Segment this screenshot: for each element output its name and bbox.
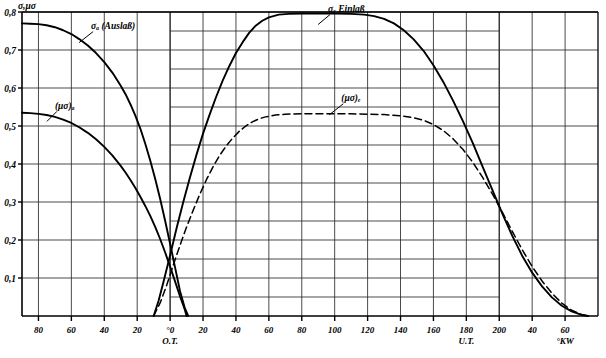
y-tick-label: 0,8: [4, 8, 16, 18]
curve-series-0: [22, 23, 188, 316]
y-tick-label: 0,6: [4, 84, 16, 94]
x-tick-label: 80: [34, 325, 44, 335]
x-tick-label: 60: [67, 325, 77, 335]
x-tick-label: 80: [297, 325, 307, 335]
y-tick-label: 0,5: [4, 122, 16, 132]
tick-labels-layer: 0,10,20,30,40,50,60,70,880604020°0O.T.20…: [4, 1, 575, 346]
chart-figure: 0,10,20,30,40,50,60,70,880604020°0O.T.20…: [0, 0, 606, 358]
x-tick-label: 140: [394, 325, 408, 335]
annotations-layer: σₐ (Auslaß)σₑ Einlaß(μσ)ₐ(μσ)ₑ: [47, 4, 365, 121]
x-tick-label: 200: [492, 325, 507, 335]
grid-layer: [22, 12, 598, 316]
x-tick-label: 40: [527, 325, 538, 335]
x-tick-label: 60: [561, 325, 571, 335]
y-tick-label: 0,3: [4, 198, 16, 208]
x-tick-label: 40: [230, 325, 241, 335]
curve-annotation-1: σₑ Einlaß: [328, 4, 365, 14]
curve-annotation-0: σₐ (Auslaß): [91, 21, 135, 32]
x-tick-sublabel: O.T.: [162, 336, 178, 346]
curve-annotation-2: (μσ)ₐ: [55, 101, 75, 112]
x-axis-unit-label: °KW: [556, 336, 575, 346]
y-tick-label: 0,2: [4, 236, 16, 246]
curve-series-2: [154, 14, 588, 316]
x-tick-label: °0: [166, 325, 175, 335]
x-tick-label: 100: [328, 325, 342, 335]
x-tick-sublabel: U.T.: [459, 336, 475, 346]
chart-svg: 0,10,20,30,40,50,60,70,880604020°0O.T.20…: [0, 0, 606, 358]
y-tick-label: 0,7: [4, 46, 17, 56]
annotation-leader-0: [79, 32, 93, 43]
curve-annotation-3: (μσ)ₑ: [341, 93, 361, 104]
x-tick-label: 120: [361, 325, 375, 335]
y-axis-title: σ,μσ: [18, 1, 37, 11]
annotation-leader-1: [318, 15, 330, 25]
x-tick-label: 160: [427, 325, 441, 335]
curve-series-3: [154, 114, 588, 316]
x-tick-label: 180: [460, 325, 474, 335]
x-tick-label: 20: [198, 325, 209, 335]
x-tick-label: 20: [132, 325, 143, 335]
y-tick-label: 0,4: [4, 160, 16, 170]
y-tick-label: 0,1: [4, 274, 16, 284]
x-tick-label: 40: [99, 325, 110, 335]
x-tick-label: 60: [264, 325, 274, 335]
curves-layer: [22, 14, 588, 316]
